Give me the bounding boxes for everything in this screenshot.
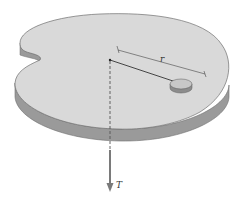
tension-label: T <box>116 180 123 190</box>
radius-label: r <box>160 54 165 64</box>
puck <box>170 79 192 93</box>
diagram-canvas: r T <box>0 0 245 202</box>
tension-arrow <box>107 150 114 192</box>
table-top <box>15 14 229 129</box>
